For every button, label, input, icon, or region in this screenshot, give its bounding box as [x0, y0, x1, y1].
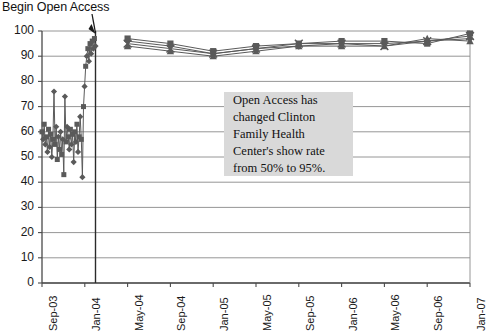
callout-line: from 50% to 95%. — [233, 160, 346, 177]
y-axis-tick-label: 10 — [4, 250, 34, 264]
callout-line: changed Clinton — [233, 109, 346, 126]
callout-line: Center's show rate — [233, 143, 346, 160]
data-point-marker — [50, 137, 55, 142]
data-point-marker — [53, 124, 59, 130]
data-point-marker — [81, 83, 87, 89]
x-axis-tick-label: Sep-03 — [47, 296, 59, 331]
data-point-marker — [40, 129, 45, 134]
data-point-marker — [92, 36, 97, 41]
data-point-marker — [66, 134, 71, 139]
y-axis-tick-label: 80 — [4, 73, 34, 87]
x-axis-tick-label: Sep-04 — [175, 296, 187, 331]
x-axis-tick-label: Jan-06 — [347, 297, 359, 331]
data-point-marker — [55, 157, 60, 162]
data-point-marker — [79, 174, 85, 180]
y-axis-tick-label: 60 — [4, 124, 34, 138]
data-point-marker — [71, 159, 77, 165]
y-axis-tick-label: 90 — [4, 48, 34, 62]
data-point-marker — [61, 172, 66, 177]
data-point-marker — [74, 122, 79, 127]
data-point-marker — [77, 114, 83, 120]
y-axis-tick-label: 70 — [4, 99, 34, 113]
y-axis-tick-label: 30 — [4, 199, 34, 213]
data-point-marker — [49, 154, 55, 160]
data-point-marker — [44, 134, 49, 139]
data-point-marker — [57, 147, 62, 152]
data-point-marker — [81, 104, 86, 109]
x-axis-tick-label: Jan-07 — [475, 297, 487, 331]
data-point-marker — [72, 129, 77, 134]
y-axis-tick-label: 100 — [4, 23, 34, 37]
data-point-marker — [51, 88, 57, 94]
data-point-marker — [48, 132, 53, 137]
x-axis-tick-label: Sep-06 — [432, 296, 444, 331]
data-point-marker — [83, 64, 88, 69]
data-point-marker — [75, 149, 81, 155]
y-axis-tick-label: 0 — [4, 275, 34, 289]
y-axis-tick-label: 20 — [4, 225, 34, 239]
x-axis-tick-label: Jan-05 — [218, 297, 230, 331]
x-axis-tick-label: May-06 — [389, 294, 401, 331]
x-axis-tick-label: May-04 — [133, 294, 145, 331]
data-point-marker — [46, 127, 51, 132]
callout-line: Open Access has — [233, 92, 346, 109]
y-axis-tick-label: 40 — [4, 174, 34, 188]
data-point-marker — [64, 139, 69, 144]
y-axis-tick-label: 50 — [4, 149, 34, 163]
callout-textbox: Open Access haschanged ClintonFamily Hea… — [224, 92, 353, 176]
data-point-marker — [53, 142, 58, 147]
data-point-marker — [68, 127, 73, 132]
data-point-marker — [59, 152, 64, 157]
x-axis-tick-label: May-05 — [261, 294, 273, 331]
data-point-marker — [42, 122, 47, 127]
x-axis-tick-label: Jan-04 — [90, 297, 102, 331]
callout-line: Family Health — [233, 126, 346, 143]
x-axis-tick-label: Sep-05 — [304, 296, 316, 331]
data-point-marker — [62, 93, 68, 99]
data-point-marker — [85, 46, 90, 51]
data-point-marker — [79, 137, 84, 142]
